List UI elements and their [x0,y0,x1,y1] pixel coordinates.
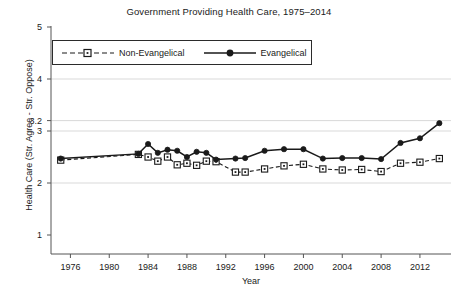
data-point-marker-center [361,169,363,171]
data-point-marker [320,156,325,161]
legend-swatch-non-evangelical [61,47,115,59]
legend-label-non-evangelical: Non-Evangelical [119,48,185,58]
data-point-marker [398,140,403,145]
data-point-marker [233,156,238,161]
data-point-marker-center [176,164,178,166]
data-point-marker-center [235,171,237,173]
data-point-marker-center [380,171,382,173]
chart-legend: Non-Evangelical Evangelical [52,40,312,65]
legend-label-evangelical: Evangelical [261,48,307,58]
legend-entry-evangelical: Evangelical [203,47,307,59]
data-point-marker [184,154,189,159]
data-point-marker [301,147,306,152]
data-point-marker-center [244,171,246,173]
legend-swatch-evangelical [203,47,257,59]
data-point-marker-center [167,156,169,158]
data-point-marker-center [322,168,324,170]
data-point-marker-center [419,161,421,163]
data-point-marker-center [283,165,285,167]
data-point-marker [136,151,141,156]
chart-container: Government Providing Health Care, 1975–2… [0,0,458,297]
data-point-marker-center [341,169,343,171]
data-point-marker-center [438,158,440,160]
data-point-marker [359,155,364,160]
data-point-marker-center [264,168,266,170]
data-point-marker [145,141,150,146]
data-point-marker [243,155,248,160]
data-point-marker-center [186,162,188,164]
data-point-marker [262,148,267,153]
data-point-marker [281,147,286,152]
data-point-marker-center [196,164,198,166]
data-point-marker-center [205,160,207,162]
data-point-marker [204,150,209,155]
data-point-marker [175,148,180,153]
data-point-marker-center [157,160,159,162]
series-line [61,123,440,159]
data-point-marker [437,121,442,126]
data-point-marker [194,149,199,154]
data-point-marker [155,150,160,155]
data-point-marker-center [400,162,402,164]
data-point-marker [165,147,170,152]
data-point-marker [340,155,345,160]
data-point-marker [417,136,422,141]
legend-entry-non-evangelical: Non-Evangelical [61,47,185,59]
data-point-marker [378,156,383,161]
data-point-marker-center [303,163,305,165]
data-point-marker [58,156,63,161]
data-point-marker [213,157,218,162]
data-point-marker-center [147,156,149,158]
